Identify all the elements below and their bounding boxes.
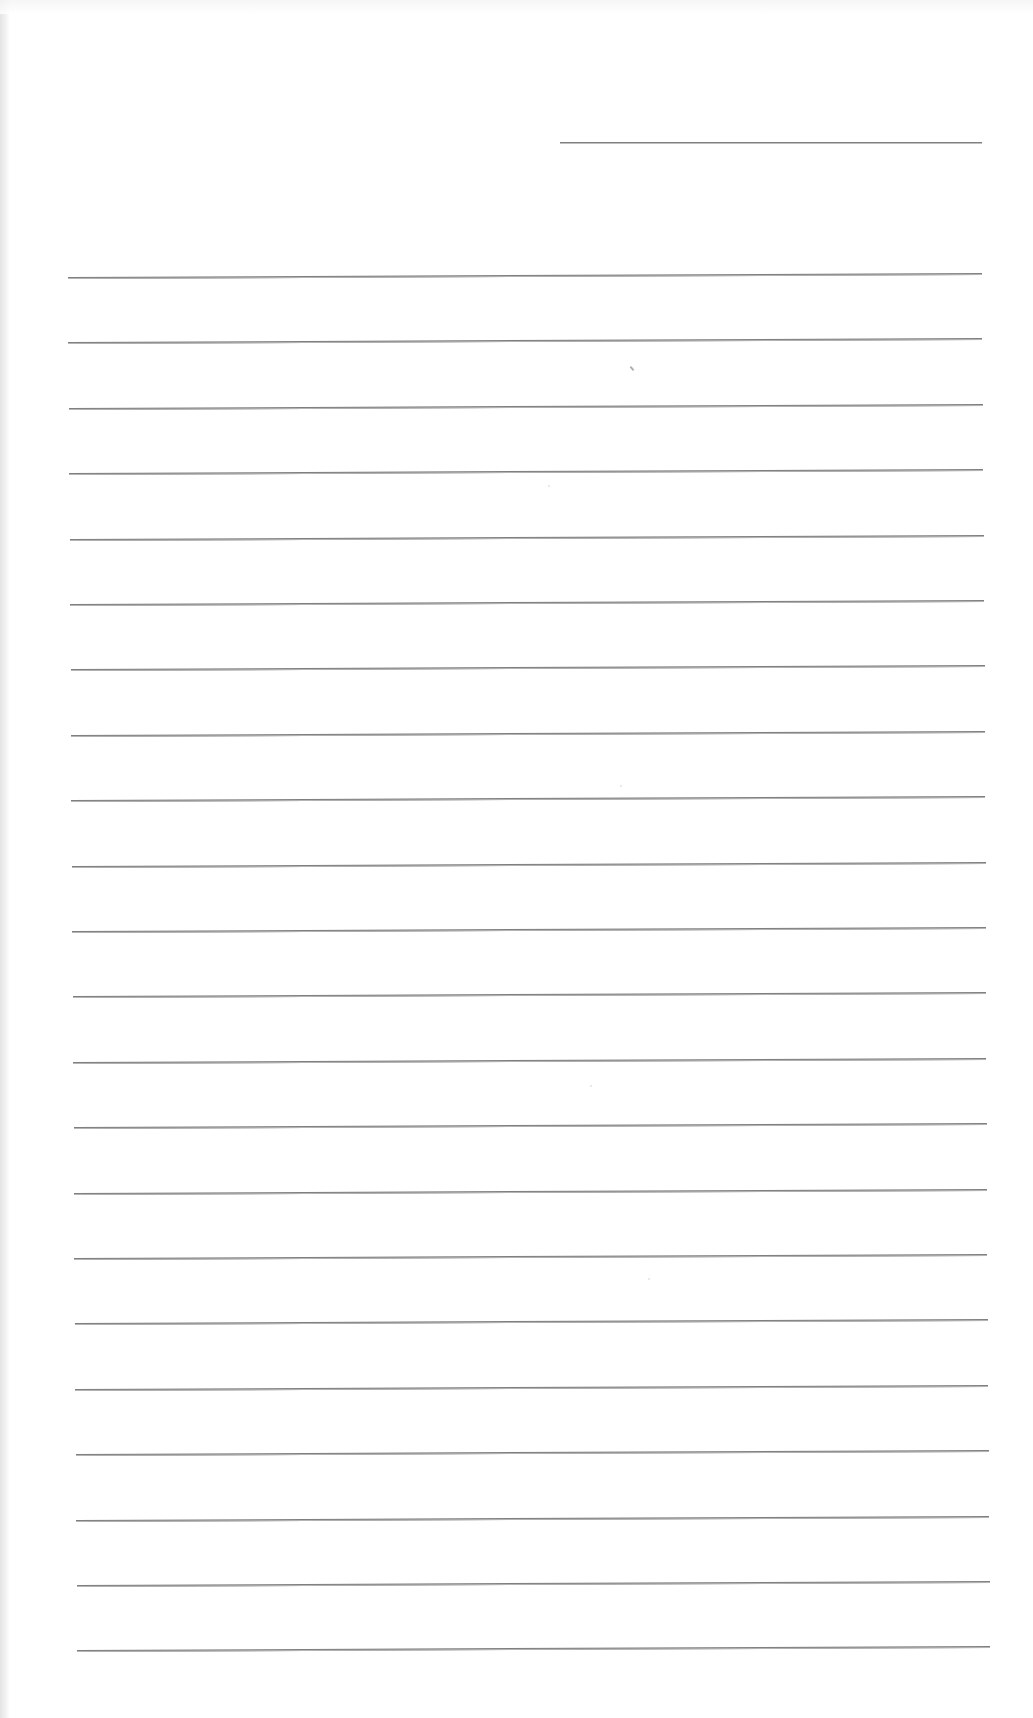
ruled-line (77, 1646, 990, 1652)
ruled-line (75, 1385, 988, 1391)
scan-top-ghost (0, 0, 1033, 14)
header-signature-line (560, 142, 982, 144)
ruled-line (71, 665, 985, 671)
scan-speck (630, 366, 635, 371)
scan-dot (548, 485, 550, 487)
ruled-line (74, 1123, 987, 1129)
ruled-line (76, 1516, 989, 1522)
scan-dot (590, 1085, 592, 1087)
ruled-line (72, 927, 986, 933)
ruled-line (74, 1254, 987, 1260)
ruled-line (71, 731, 985, 737)
ruled-line (73, 1058, 986, 1064)
ruled-line (75, 1319, 988, 1325)
ruled-line (68, 338, 982, 344)
ruled-line (70, 535, 984, 541)
ruled-line (69, 469, 983, 475)
scan-dot (648, 1278, 650, 1280)
ruled-line (77, 1581, 990, 1587)
ruled-line (71, 796, 985, 802)
ruled-line (69, 404, 983, 410)
scan-dot (620, 785, 622, 787)
ruled-line (72, 862, 986, 868)
ruled-line (70, 600, 984, 606)
ruled-line (74, 1189, 987, 1195)
ruled-line (76, 1450, 989, 1456)
scan-edge-shadow (0, 0, 9, 1718)
ruled-line (73, 992, 986, 998)
lined-paper-page (0, 0, 1033, 1718)
ruled-line (68, 273, 982, 279)
